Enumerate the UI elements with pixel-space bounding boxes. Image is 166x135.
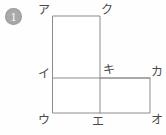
vertex-label-ka: カ <box>151 66 163 78</box>
vertex-label-i: イ <box>38 68 50 80</box>
composite-rectangle-svg <box>0 0 166 135</box>
figure-outline-path <box>53 16 150 113</box>
vertex-label-u: ウ <box>38 114 50 126</box>
vertex-label-a: ア <box>38 4 50 16</box>
vertex-label-o: オ <box>151 114 163 126</box>
vertex-label-e: エ <box>92 116 104 128</box>
vertex-label-ku: ク <box>101 4 113 16</box>
vertex-label-ki: キ <box>103 64 115 76</box>
geometry-figure-panel: 1 ア ク イ キ カ ウ エ オ <box>0 0 166 135</box>
figure-drawing-canvas <box>0 0 166 135</box>
